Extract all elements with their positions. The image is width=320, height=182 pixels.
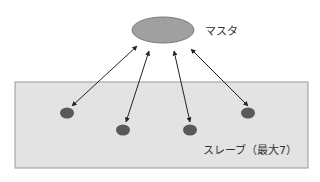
slave-node-1 [60,108,74,119]
slave-node-4 [241,108,255,119]
slave-area-label: スレーブ（最大7） [203,141,297,157]
master-label: マスタ [205,22,238,38]
slave-node-3 [183,125,197,136]
master-node [132,17,194,43]
slave-node-2 [116,125,130,136]
